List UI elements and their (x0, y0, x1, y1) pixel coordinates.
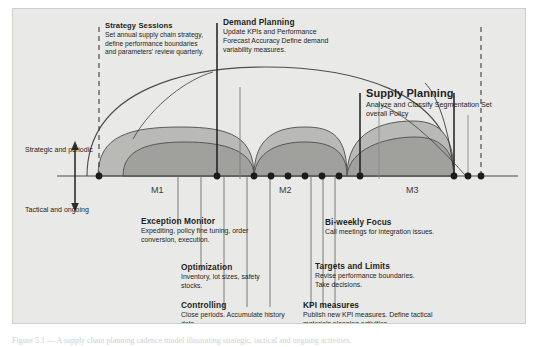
figure-caption: Figure 5.1 — A supply chain planning cad… (12, 336, 526, 345)
annotation-title: Strategy Sessions (105, 21, 209, 30)
annotation-bi-weekly-focus: Bi-weekly Focus Call meetings for integr… (325, 217, 443, 237)
annotation-body: Set annual supply chain strategy, define… (105, 31, 209, 57)
period-label-m3: M3 (406, 185, 419, 195)
annotation-supply-planning: Supply Planning Analyze and Classify Seg… (366, 87, 506, 118)
baseline-marker (336, 173, 343, 180)
annotation-title: Targets and Limits (315, 261, 427, 271)
annotation-body: Publish new KPI measures. Define tactica… (303, 311, 453, 324)
annotation-body: Close periods. Accumulate history data. (181, 311, 293, 324)
annotation-demand-planning: Demand Planning Update KPIs and Performa… (223, 17, 345, 54)
annotation-body-text: Expediting, policy fine tuning, order co… (141, 227, 261, 245)
annotation-optimization: Optimization Inventory, lot sizes, safet… (181, 262, 276, 291)
baseline-marker (302, 173, 309, 180)
baseline-marker (465, 173, 472, 180)
annotation-exception-monitor: Exception Monitor Expediting, policy fin… (141, 216, 261, 245)
annotation-targets-and-limits: Targets and Limits Revise performance bo… (315, 261, 427, 290)
annotation-title: Demand Planning (223, 17, 345, 27)
annotation-body: Analyze and Classify Segmentation Set ov… (366, 100, 506, 118)
baseline-marker (96, 173, 103, 180)
period-label-m2: M2 (279, 185, 292, 195)
baseline-marker (251, 173, 258, 180)
baseline-marker (268, 173, 275, 180)
baseline-marker (451, 173, 458, 180)
axis-label-strategic: Strategic and periodic (25, 146, 93, 153)
annotation-title: Exception Monitor (141, 216, 261, 226)
annotation-title: KPI measures (303, 300, 453, 310)
axis-label-tactical: Tactical and ongoing (25, 206, 89, 213)
baseline-marker (478, 173, 485, 180)
annotation-kpi-measures: KPI measures Publish new KPI measures. D… (303, 300, 453, 324)
annotation-strategy-sessions: Strategy Sessions Set annual supply chai… (105, 21, 209, 57)
annotation-body: Update KPIs and Performance Forecast Acc… (223, 28, 345, 54)
baseline-marker (357, 173, 364, 180)
period-label-m1: M1 (151, 185, 164, 195)
diagram-panel: Strategy Sessions Set annual supply chai… (12, 8, 526, 324)
annotation-body: Inventory, lot sizes, safety stocks. (181, 273, 276, 291)
annotation-title: Optimization (181, 262, 276, 272)
annotation-body: Revise performance boundaries. Take deci… (315, 272, 427, 290)
annotation-title: Bi-weekly Focus (325, 217, 443, 227)
annotation-controlling: Controlling Close periods. Accumulate hi… (181, 300, 293, 324)
baseline-marker (285, 173, 292, 180)
annotation-title: Supply Planning (366, 87, 506, 99)
annotation-title: Controlling (181, 300, 293, 310)
baseline-marker (319, 173, 326, 180)
baseline-marker (214, 173, 221, 180)
annotation-body: Call meetings for integration issues. (325, 228, 443, 237)
